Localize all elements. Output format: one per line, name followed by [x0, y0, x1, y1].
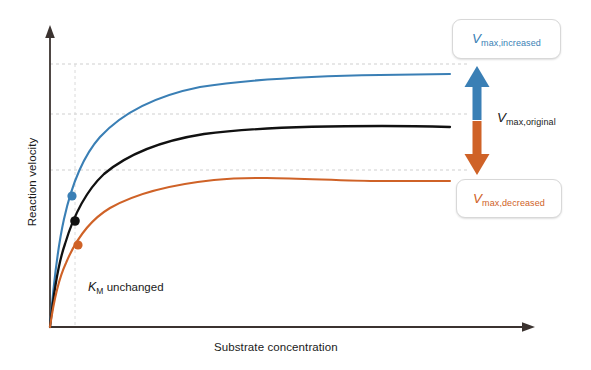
x-axis-label: Substrate concentration [214, 341, 338, 353]
annotation-km-unchanged: KM unchanged [88, 280, 164, 294]
up-arrow-icon [465, 66, 490, 120]
marker-dot-increased [67, 191, 76, 200]
callout-increased-text: Vmax,increased [472, 32, 541, 46]
vmax-symbol: V [472, 31, 481, 46]
callout-vmax-increased: Vmax,increased [452, 19, 561, 59]
km-subscript: M [96, 286, 103, 296]
vmax-subscript: max,increased [481, 38, 541, 48]
y-axis-label: Reaction velocity [26, 122, 38, 242]
callout-vmax-decreased: Vmax,decreased [456, 179, 562, 218]
callout-decreased-text: Vmax,decreased [473, 192, 545, 206]
vmax-subscript: max,decreased [482, 198, 545, 208]
vmax-symbol: V [497, 110, 506, 125]
curve-vmax-original [50, 126, 450, 327]
km-note-text: unchanged [103, 281, 163, 293]
label-vmax-original: Vmax,original [497, 108, 556, 126]
marker-dot-original [70, 216, 80, 226]
vmax-subscript: max,original [506, 117, 556, 127]
x-axis-arrowhead [522, 322, 535, 332]
label-original-text: Vmax,original [497, 111, 556, 125]
michaelis-menten-figure: Substrate concentration Reaction velocit… [0, 0, 591, 370]
down-arrow-icon [465, 121, 490, 175]
y-axis-arrowhead [45, 25, 55, 38]
curve-vmax-decreased [50, 178, 450, 327]
vmax-symbol: V [473, 191, 482, 206]
marker-dot-decreased [73, 240, 82, 249]
